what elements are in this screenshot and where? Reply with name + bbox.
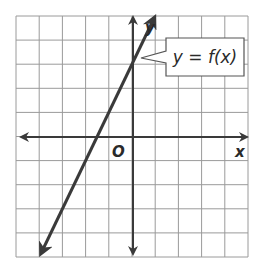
origin-label: O <box>112 143 125 161</box>
coordinate-graph: y = f(x) y x O <box>0 0 256 269</box>
callout: y = f(x) <box>141 38 244 76</box>
callout-label: y = f(x) <box>172 47 237 67</box>
function-line <box>41 18 154 253</box>
y-axis-label: y <box>145 19 156 37</box>
x-axis-label: x <box>234 143 246 161</box>
